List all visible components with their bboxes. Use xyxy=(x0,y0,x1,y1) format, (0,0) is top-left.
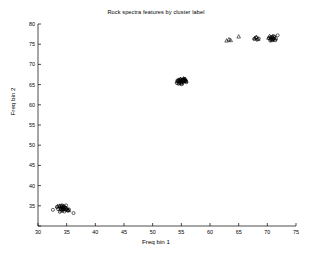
y-axis-label: Freq bin 2 xyxy=(9,66,16,138)
data-point-triangle xyxy=(237,35,241,38)
y-tick-label: 35 xyxy=(29,203,35,209)
y-tick-label: 55 xyxy=(29,122,35,128)
x-tick-label: 50 xyxy=(150,229,156,235)
x-tick-label: 30 xyxy=(35,229,41,235)
y-tick-label: 75 xyxy=(29,41,35,47)
data-point-circle xyxy=(51,208,54,211)
y-tick-label: 60 xyxy=(29,102,35,108)
data-point-circle xyxy=(72,212,75,215)
x-tick-label: 75 xyxy=(293,229,299,235)
y-tick-label: 45 xyxy=(29,162,35,168)
y-tick-label: 40 xyxy=(29,183,35,189)
y-tick-label: 50 xyxy=(29,142,35,148)
data-points-group xyxy=(51,34,279,215)
scatter-plot: 3035404550556065707535404550556065707580 xyxy=(0,0,312,254)
x-tick-label: 60 xyxy=(207,229,213,235)
y-tick-label: 65 xyxy=(29,82,35,88)
figure-canvas: Rock spectra features by cluster label 3… xyxy=(0,0,312,254)
x-tick-label: 55 xyxy=(178,229,184,235)
y-tick-label: 80 xyxy=(29,21,35,27)
x-tick-label: 70 xyxy=(264,229,270,235)
x-axis-label: Freq bin 1 xyxy=(0,238,312,245)
y-tick-label: 70 xyxy=(29,61,35,67)
x-tick-label: 45 xyxy=(121,229,127,235)
x-tick-label: 65 xyxy=(236,229,242,235)
x-tick-label: 40 xyxy=(92,229,98,235)
x-tick-label: 35 xyxy=(64,229,70,235)
